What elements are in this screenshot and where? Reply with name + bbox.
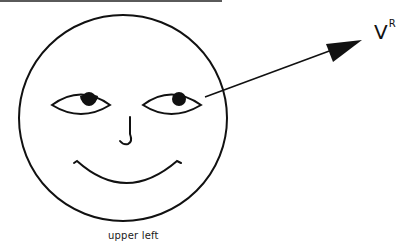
gaze-vector-arrow [205, 40, 362, 97]
right-eye [143, 92, 201, 114]
vector-label-superscript: R [389, 18, 396, 29]
vector-label: VR [374, 22, 396, 42]
vector-label-base: V [374, 20, 388, 44]
arrowhead-icon [326, 40, 362, 62]
right-pupil [172, 92, 186, 106]
figure-caption: upper left [108, 230, 159, 241]
nose [120, 117, 131, 144]
left-eye [52, 92, 110, 114]
face-diagram [0, 0, 408, 249]
face-circle [19, 15, 227, 221]
smile [74, 161, 181, 183]
